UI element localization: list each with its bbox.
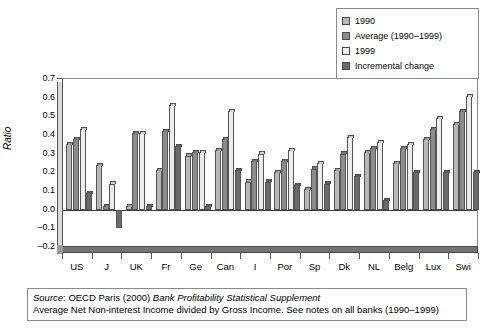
- x-axis-tick-label: Dk: [338, 262, 350, 272]
- legend-swatch-icon: [342, 47, 350, 55]
- bar: [311, 169, 317, 210]
- x-axis-tick-label: Belg: [394, 262, 413, 272]
- bar: [265, 182, 271, 210]
- bar-top-face: [289, 148, 295, 151]
- bar-top-face: [229, 109, 235, 112]
- legend-item-label: Incremental change: [355, 62, 434, 71]
- legend-item[interactable]: Average (1990–1999): [342, 29, 473, 43]
- bar: [281, 161, 287, 210]
- bar: [354, 176, 360, 210]
- bar-top-face: [355, 174, 361, 177]
- x-axis-tick-label: Por: [277, 262, 292, 272]
- caption-source-word: Source: [33, 292, 63, 303]
- caption-publication-title: Bank Profitability Statistical Supplemen…: [153, 292, 320, 303]
- legend-swatch-icon: [342, 62, 350, 70]
- x-axis-tick-mark: [240, 253, 241, 259]
- bar-top-face: [200, 150, 206, 153]
- bar-top-face: [87, 191, 93, 194]
- bar-top-face: [467, 94, 473, 97]
- bar: [364, 152, 370, 210]
- x-axis-tick-mark: [211, 253, 212, 259]
- bar: [80, 129, 86, 209]
- bar: [139, 133, 145, 210]
- plot-area: [62, 78, 478, 246]
- x-axis-tick-label: UK: [130, 262, 143, 272]
- x-axis-tick-mark: [300, 253, 301, 259]
- bar-top-face: [259, 151, 265, 154]
- x-axis-tick-label: Swi: [455, 262, 470, 272]
- bar: [407, 144, 413, 209]
- bar-top-face: [474, 170, 480, 173]
- bar: [413, 172, 419, 209]
- bar-top-face: [384, 198, 390, 201]
- bar: [288, 150, 294, 210]
- bar: [251, 161, 257, 210]
- y-axis-tick-label: 0.6: [42, 93, 55, 102]
- x-axis-tick-label: US: [70, 262, 83, 272]
- zero-baseline: [63, 210, 477, 211]
- bar-top-face: [266, 179, 272, 182]
- legend-item-label: 1999: [355, 47, 375, 56]
- caption-line-2: Average Net Non-interest Income divided …: [33, 304, 461, 316]
- bar-top-face: [206, 204, 212, 207]
- x-axis: USJUKFrGeCanIPorSpDkNLBelgLuxSwi: [62, 253, 478, 277]
- bar: [443, 172, 449, 209]
- bar-top-face: [81, 127, 87, 130]
- bar-top-face: [110, 181, 116, 184]
- bar-top-face: [318, 161, 324, 164]
- bar: [192, 152, 198, 210]
- x-axis-tick-mark: [478, 253, 479, 259]
- bar: [453, 124, 459, 210]
- bar: [377, 142, 383, 209]
- bar: [423, 139, 429, 210]
- x-axis-tick-mark: [389, 253, 390, 259]
- bar: [245, 182, 251, 210]
- bar: [334, 170, 340, 209]
- bar: [73, 139, 79, 210]
- caption-line-1: Source: OECD Paris (2000) Bank Profitabi…: [33, 292, 461, 304]
- bar: [317, 163, 323, 210]
- bar: [400, 148, 406, 210]
- legend-item[interactable]: 1990: [342, 14, 473, 28]
- bar: [215, 150, 221, 210]
- x-axis-tick-mark: [181, 253, 182, 259]
- chart-legend: 1990Average (1990–1999)1999Incremental c…: [336, 8, 479, 79]
- bar: [96, 165, 102, 210]
- bar: [66, 144, 72, 209]
- bar: [393, 163, 399, 210]
- legend-item[interactable]: 1999: [342, 44, 473, 58]
- y-axis-tick-label: 0.0: [42, 205, 55, 214]
- source-caption: Source: OECD Paris (2000) Bank Profitabi…: [27, 288, 467, 321]
- bar: [304, 189, 310, 210]
- chart-figure: 1990Average (1990–1999)1999Incremental c…: [0, 0, 485, 330]
- bar-top-face: [140, 131, 146, 134]
- bar-top-face: [444, 170, 450, 173]
- bar: [294, 185, 300, 209]
- y-axis-tick-label: –0.2: [37, 242, 55, 251]
- y-axis-tick-label: 0.1: [42, 186, 55, 195]
- bar: [340, 154, 346, 210]
- x-axis-tick-label: I: [254, 262, 257, 272]
- legend-swatch-icon: [342, 17, 350, 25]
- x-axis-tick-label: Can: [217, 262, 234, 272]
- bar: [324, 184, 330, 210]
- bar-top-face: [414, 170, 420, 173]
- y-axis-tick-label: 0.5: [42, 111, 55, 120]
- legend-item-label: 1990: [355, 17, 375, 26]
- bar-top-face: [170, 103, 176, 106]
- x-axis-tick-label: Lux: [426, 262, 441, 272]
- bar: [436, 118, 442, 209]
- x-axis-tick-label: Sp: [309, 262, 321, 272]
- bar: [370, 148, 376, 210]
- bar-top-face: [147, 204, 153, 207]
- bar: [116, 210, 122, 229]
- x-axis-tick-label: NL: [368, 262, 380, 272]
- bar: [169, 105, 175, 210]
- caption-source-mid: : OECD Paris (2000): [63, 292, 153, 303]
- bar: [199, 152, 205, 210]
- bar: [347, 137, 353, 210]
- x-axis-tick-mark: [270, 253, 271, 259]
- bar: [383, 200, 389, 209]
- bar: [274, 172, 280, 209]
- legend-item[interactable]: Incremental change: [342, 59, 473, 73]
